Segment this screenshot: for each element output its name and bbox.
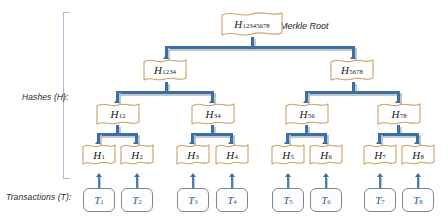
node-h5[interactable]: H5 (271, 143, 305, 166)
node-h6[interactable]: H6 (309, 143, 343, 166)
flag-shape-icon (176, 143, 210, 166)
connector-h12-bar (97, 133, 138, 136)
connector-level1-bar (165, 46, 355, 49)
flag-shape-icon (120, 143, 154, 166)
node-t6-subscript: 6 (327, 198, 330, 205)
flag-shape-icon (377, 102, 421, 126)
flag-shape-icon (401, 143, 435, 166)
node-h8[interactable]: H8 (401, 143, 435, 166)
node-t1-subscript: 1 (100, 198, 103, 205)
node-t2-subscript: 2 (138, 198, 141, 205)
node-h7[interactable]: H7 (363, 143, 397, 166)
connector-t6-to-h6 (325, 176, 327, 188)
node-t1[interactable]: T1 (83, 188, 115, 212)
node-t2[interactable]: T2 (121, 188, 153, 212)
connector-level2-left-bar (116, 91, 214, 94)
node-t3-subscript: 3 (194, 198, 197, 205)
node-root-h12345678[interactable]: H12345678 (221, 11, 283, 37)
node-t5-subscript: 5 (289, 198, 292, 205)
flag-shape-icon (363, 143, 397, 166)
flag-shape-icon (330, 58, 374, 82)
arrow-into-h2-from-t2-icon (134, 173, 140, 177)
arrow-into-h6-from-t6-icon (323, 173, 329, 177)
connector-h78-bar (378, 133, 419, 136)
node-h78[interactable]: H78 (377, 102, 421, 126)
node-h1234[interactable]: H1234 (143, 58, 187, 82)
connector-t1-to-h1 (98, 176, 100, 188)
node-t6[interactable]: T6 (310, 188, 342, 212)
connector-t3-to-h3 (192, 176, 194, 188)
node-t5[interactable]: T5 (272, 188, 304, 212)
node-h2[interactable]: H2 (120, 143, 154, 166)
connector-t7-to-h7 (379, 176, 381, 188)
flag-shape-icon (215, 143, 249, 166)
connector-t2-to-h2 (136, 176, 138, 188)
node-h4[interactable]: H4 (215, 143, 249, 166)
arrow-into-h7-from-t7-icon (377, 173, 383, 177)
flag-shape-icon (191, 102, 235, 126)
node-h3[interactable]: H3 (176, 143, 210, 166)
flag-shape-icon (221, 11, 283, 37)
node-t8-subscript: 8 (419, 198, 422, 205)
hashes-label: Hashes (H): (22, 92, 68, 102)
node-h34[interactable]: H34 (191, 102, 235, 126)
node-t7-subscript: 7 (381, 198, 384, 205)
arrow-into-h3-from-t3-icon (190, 173, 196, 177)
node-t7[interactable]: T7 (364, 188, 396, 212)
node-h12[interactable]: H12 (96, 102, 140, 126)
flag-shape-icon (96, 102, 140, 126)
transactions-label: Transactions (T): (6, 192, 71, 202)
flag-shape-icon (143, 58, 187, 82)
connector-h56-bar (286, 133, 327, 136)
arrow-into-h1-from-t1-icon (96, 173, 102, 177)
connector-t5-to-h5 (287, 176, 289, 188)
flag-shape-icon (271, 143, 305, 166)
arrow-into-h8-from-t8-icon (415, 173, 421, 177)
connector-t4-to-h4 (231, 176, 233, 188)
node-t4[interactable]: T4 (216, 188, 248, 212)
node-t8[interactable]: T8 (402, 188, 434, 212)
node-h56[interactable]: H56 (285, 102, 329, 126)
connector-t8-to-h8 (417, 176, 419, 188)
connector-h34-bar (191, 133, 233, 136)
node-h1[interactable]: H1 (82, 143, 116, 166)
merkle-tree-diagram: Hashes (H): Transactions (T): Merkle Roo… (0, 0, 448, 221)
arrow-into-h5-from-t5-icon (285, 173, 291, 177)
merkle-root-annotation: Merkle Root (280, 21, 329, 31)
flag-shape-icon (309, 143, 343, 166)
node-t4-subscript: 4 (233, 198, 236, 205)
flag-shape-icon (82, 143, 116, 166)
node-h5678[interactable]: H5678 (330, 58, 374, 82)
connector-level2-right-bar (305, 91, 400, 94)
node-t3[interactable]: T3 (177, 188, 209, 212)
arrow-into-h4-from-t4-icon (229, 173, 235, 177)
flag-shape-icon (285, 102, 329, 126)
